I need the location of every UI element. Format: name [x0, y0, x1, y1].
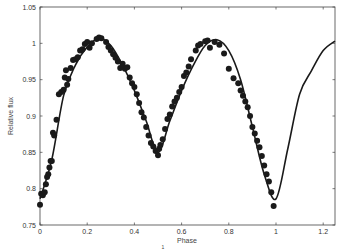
data-point [43, 181, 49, 187]
data-point [61, 87, 67, 93]
data-point [37, 202, 43, 208]
x-axis: 00.20.40.60.811.2 [38, 7, 328, 235]
data-point [264, 171, 270, 177]
data-point [136, 100, 142, 106]
y-axis-label: Relative flux [7, 96, 14, 135]
data-point [183, 69, 189, 75]
data-point [205, 37, 211, 43]
x-tick-label: 0 [38, 228, 42, 235]
data-point [54, 117, 60, 123]
x-tick-label: 0.2 [82, 228, 92, 235]
data-point [247, 113, 253, 119]
y-tick-label: 0.8 [26, 185, 36, 192]
x-tick-label: 0.8 [224, 228, 234, 235]
data-point [98, 35, 104, 41]
data-point [179, 84, 185, 90]
data-point [221, 51, 227, 57]
data-point [49, 158, 55, 164]
y-tick-label: 0.9 [26, 113, 36, 120]
x-axis-label: Phase [177, 237, 197, 244]
data-point [167, 112, 173, 118]
footnote-mark: 1 [162, 244, 165, 250]
data-point [261, 162, 267, 168]
data-point [207, 45, 213, 51]
data-point [42, 189, 48, 195]
data-point [174, 95, 180, 101]
data-point [242, 98, 248, 104]
data-point [231, 75, 237, 81]
data-point [240, 93, 246, 99]
data-point [249, 124, 255, 130]
y-axis: 0.750.80.850.90.9511.05 [22, 4, 335, 229]
data-point [134, 91, 140, 97]
light-curve-chart: 00.20.40.60.811.2 0.750.80.850.90.9511.0… [0, 0, 340, 251]
data-point [155, 152, 161, 158]
x-tick-label: 0.4 [130, 228, 140, 235]
data-point [157, 142, 163, 148]
data-point [51, 133, 57, 139]
plot-frame [40, 7, 335, 225]
x-tick-label: 1 [274, 228, 278, 235]
data-point [46, 165, 52, 171]
data-point [216, 42, 222, 48]
data-point [141, 114, 147, 120]
data-point [245, 104, 251, 110]
y-tick-label: 0.75 [22, 222, 36, 229]
data-point [45, 171, 51, 177]
data-point [226, 66, 232, 72]
data-point [271, 203, 277, 209]
y-tick-label: 0.85 [22, 149, 36, 156]
y-tick-label: 0.95 [22, 76, 36, 83]
data-point [256, 144, 262, 150]
data-point [124, 64, 130, 70]
x-tick-label: 1.2 [318, 228, 328, 235]
data-point [68, 65, 74, 71]
data-point [162, 126, 168, 132]
data-point [64, 82, 70, 88]
y-tick-label: 1.05 [22, 4, 36, 11]
data-point [65, 76, 71, 82]
data-point [259, 153, 265, 159]
x-tick-label: 0.6 [177, 228, 187, 235]
data-point [266, 178, 272, 184]
data-point [75, 54, 81, 60]
model-curve-line [40, 38, 335, 199]
data-point [235, 80, 241, 86]
data-point [143, 124, 149, 130]
data-point [89, 40, 95, 46]
data-point [160, 136, 166, 142]
data-point [186, 64, 192, 70]
data-point [146, 133, 152, 139]
data-point [188, 56, 194, 62]
data-point [252, 130, 258, 136]
observed-points-group [37, 35, 277, 210]
data-point [127, 74, 133, 80]
y-tick-label: 1 [32, 40, 36, 47]
data-point [131, 84, 137, 90]
model-curve-group [40, 38, 335, 199]
data-point [254, 138, 260, 144]
data-point [268, 189, 274, 195]
